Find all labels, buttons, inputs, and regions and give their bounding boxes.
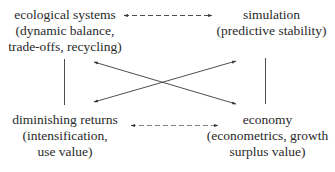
arrow-eco-econ xyxy=(94,62,236,104)
diagram-edges xyxy=(0,0,335,172)
arrow-dim-sim xyxy=(94,61,236,102)
